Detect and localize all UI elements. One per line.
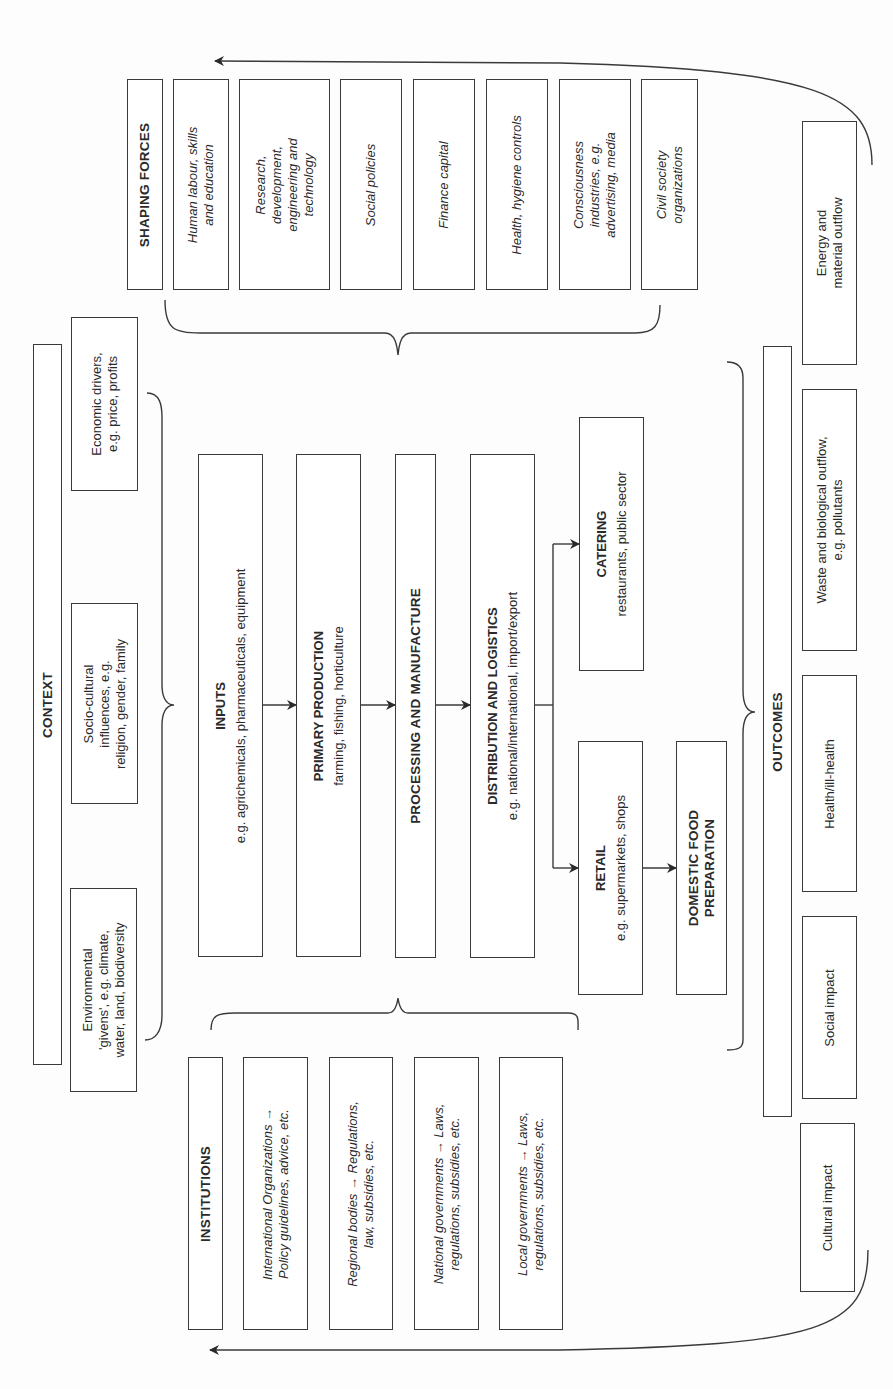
shaping-force-consciousness-industries: Consciousnessindustries, e.g.advertising… [559,79,631,290]
label-line: Social impact [822,969,838,1046]
label-line: Socio-cultural [81,664,96,743]
chain-inputs: INPUTSe.g. agrichemicals, pharmaceutical… [198,454,263,957]
stage-desc: e.g. supermarkets, shops [613,795,629,941]
label-line: International Organizations → [260,1108,275,1280]
institutions-header: INSTITUTIONS [188,1057,223,1330]
outcome-health: Health/ill-health [802,675,857,892]
outcome-energy-material: Energy andmaterial outflow [802,121,857,365]
label-line: regulations, subsidies, etc. [447,1117,462,1270]
shaping-force-social-policies: Social policies [340,79,402,290]
shaping-forces-brace [165,300,660,355]
stage-title: PRIMARY PRODUCTION [311,626,327,786]
outcome-social-impact: Social impact [802,916,857,1099]
label-line: e.g. price, profits [105,356,120,452]
chain-catering: CATERINGrestaurants, public sector [579,417,644,671]
shaping-force-finance-capital: Finance capital [413,79,475,290]
stage-title: RETAIL [593,795,609,941]
chain-processing-manufacture: PROCESSING AND MANUFACTURE [395,454,436,958]
label-line: Research, [253,155,268,214]
label-line: industries, e.g. [587,142,602,227]
institution-international-orgs: International Organizations →Policy guid… [243,1057,308,1330]
label-line: Local governments → Laws, [515,1111,530,1275]
stage-desc: farming, fishing, horticulture [331,626,347,786]
stage-desc: e.g. agrichemicals, pharmaceuticals, equ… [233,568,249,843]
shaping-forces-title: SHAPING FORCES [137,122,153,246]
label-line: Waste and biological outflow, [814,436,829,603]
food-system-diagram: SHAPING FORCES Human labour, skillsand e… [0,0,893,1389]
context-header: CONTEXT [33,344,62,1065]
institution-national-governments: National governments → Laws,regulations,… [414,1057,479,1330]
label-line: Human labour, skills [185,126,200,242]
label-line: PREPARATION [702,819,717,917]
institution-local-governments: Local governments → Laws,regulations, su… [499,1057,563,1330]
chain-distribution-logistics: DISTRIBUTION AND LOGISTICSe.g. national/… [470,454,535,958]
label-line: Policy guidelines, advice, etc. [276,1109,291,1279]
context-economic-drivers: Economic drivers,e.g. price, profits [71,317,138,491]
label-line: Health, hygiene controls [509,115,525,254]
institutions-title: INSTITUTIONS [198,1145,214,1241]
context-brace [145,393,174,1040]
shaping-force-human-labour: Human labour, skillsand education [173,79,229,290]
outcomes-brace [727,362,755,1050]
institution-regional-bodies: Regional bodies → Regulations,law, subsi… [329,1057,393,1330]
chain-domestic-food-preparation: DOMESTIC FOODPREPARATION [676,741,727,995]
shaping-force-research: Research,development,engineering andtech… [239,79,330,290]
label-line: National governments → Laws, [431,1103,446,1284]
institutions-brace [211,998,578,1030]
shaping-force-civil-society: Civil societyorganizations [641,79,698,290]
label-line: religion, gender, family [113,638,128,768]
context-socio-cultural: Socio-culturalinfluences, e.g.religion, … [71,603,138,804]
label-line: Cultural impact [820,1164,836,1251]
label-line: Regional bodies → Regulations, [345,1101,360,1287]
chain-primary-production: PRIMARY PRODUCTIONfarming, fishing, hort… [296,454,361,957]
outcome-cultural-impact: Cultural impact [800,1123,855,1292]
stage-desc: restaurants, public sector [614,471,630,616]
stage-title: INPUTS [213,568,229,843]
stage-title: DISTRIBUTION AND LOGISTICS [485,592,501,820]
label-line: Economic drivers, [89,352,104,455]
stage-desc: e.g. national/international, import/expo… [505,592,521,820]
outcome-waste-biological: Waste and biological outflow,e.g. pollut… [802,389,857,651]
label-line: advertising, media [603,132,618,238]
outcomes-title: OUTCOMES [770,692,786,772]
label-line: Energy and [814,210,829,277]
label-line: law, subsidies, etc. [361,1139,376,1247]
label-line: and education [201,144,216,226]
label-line: Civil society [654,150,669,219]
label-line: 'givens', e.g. climate, [96,930,111,1050]
label-line: engineering and [285,138,300,231]
context-environmental: Environmental'givens', e.g. climate,wate… [70,888,137,1092]
label-line: regulations, subsidies, etc. [531,1117,546,1270]
label-line: Health/ill-health [822,739,838,829]
label-line: Finance capital [436,141,452,228]
label-line: Consciousness [571,140,586,228]
outcomes-header: OUTCOMES [763,346,792,1117]
label-line: water, land, biodiversity [112,922,127,1057]
label-line: development, [269,145,284,223]
stage-title: CATERING [594,471,610,616]
label-line: technology [301,153,316,216]
label-line: material outflow [830,197,845,288]
label-line: DOMESTIC FOOD [686,810,701,927]
context-title: CONTEXT [40,672,56,738]
label-line: influences, e.g. [97,660,112,747]
shaping-force-health-hygiene: Health, hygiene controls [486,79,548,290]
shaping-forces-header: SHAPING FORCES [127,79,163,290]
label-line: organizations [670,146,685,223]
stage-title: PROCESSING AND MANUFACTURE [408,588,424,824]
label-line: Environmental [80,948,95,1031]
label-line: Social policies [363,143,379,225]
label-line: e.g. pollutants [830,480,845,561]
chain-retail: RETAILe.g. supermarkets, shops [578,741,643,995]
